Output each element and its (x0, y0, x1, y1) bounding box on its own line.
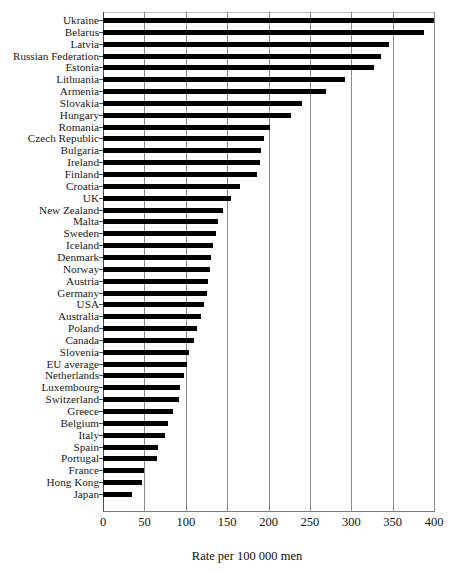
bar (103, 291, 207, 296)
x-tick-label: 350 (383, 515, 402, 529)
category-label: Finland (0, 169, 99, 180)
bar (103, 42, 389, 47)
category-label: Portugal (0, 453, 99, 464)
bar (103, 219, 218, 224)
category-label: USA (0, 299, 99, 310)
bar (103, 373, 184, 378)
category-label: Netherlands (0, 370, 99, 381)
bar (103, 433, 165, 438)
category-label: Iceland (0, 240, 99, 251)
category-label: Czech Republic (0, 133, 99, 144)
bar (103, 409, 173, 414)
category-label: Denmark (0, 252, 99, 263)
bar (103, 65, 374, 70)
category-label: Poland (0, 323, 99, 334)
bar (103, 279, 208, 284)
category-label: Latvia (0, 39, 99, 50)
bar (103, 445, 158, 450)
category-label: Slovenia (0, 347, 99, 358)
bar (103, 30, 424, 35)
bar (103, 421, 168, 426)
bar (103, 54, 381, 59)
bar (103, 18, 434, 23)
x-axis-tick-labels: 050100150200250300350400 (103, 515, 434, 533)
bar (103, 314, 201, 319)
bar (103, 255, 211, 260)
bar (103, 350, 189, 355)
bar (103, 184, 240, 189)
bar (103, 243, 213, 248)
category-label: Russian Federation (0, 51, 99, 62)
category-label: Canada (0, 335, 99, 346)
category-label: Norway (0, 264, 99, 275)
category-label: Romania (0, 122, 99, 133)
bar (103, 77, 345, 82)
category-label: Lithuania (0, 74, 99, 85)
bar (103, 338, 194, 343)
category-label: Armenia (0, 86, 99, 97)
bar (103, 136, 264, 141)
bar (103, 302, 204, 307)
plot-area (103, 12, 434, 512)
category-label: Japan (0, 489, 99, 500)
category-label: Bulgaria (0, 145, 99, 156)
category-label: Belarus (0, 27, 99, 38)
bar (103, 492, 132, 497)
category-label: UK (0, 193, 99, 204)
bar (103, 326, 197, 331)
category-label: EU average (0, 359, 99, 370)
bar (103, 456, 157, 461)
bar-chart: UkraineBelarusLatviaRussian FederationEs… (0, 0, 454, 573)
bar (103, 208, 223, 213)
x-tick-label: 400 (425, 515, 444, 529)
bar (103, 172, 257, 177)
category-label: Luxembourg (0, 382, 99, 393)
category-label: France (0, 465, 99, 476)
bar (103, 468, 144, 473)
bar (103, 89, 326, 94)
bar (103, 160, 260, 165)
x-tick-label: 0 (100, 515, 106, 529)
x-axis-title: Rate per 100 000 men (0, 549, 454, 564)
category-label: Malta (0, 216, 99, 227)
category-label: Hungary (0, 110, 99, 121)
bar-rows (103, 12, 434, 512)
bar (103, 125, 270, 130)
category-label: Estonia (0, 62, 99, 73)
category-label: Spain (0, 442, 99, 453)
category-label: Germany (0, 288, 99, 299)
category-label: Sweden (0, 228, 99, 239)
bar (103, 113, 291, 118)
bar (103, 148, 261, 153)
x-tick-label: 100 (176, 515, 195, 529)
x-tick-label: 200 (259, 515, 278, 529)
bar (103, 385, 180, 390)
x-tick-label: 250 (301, 515, 320, 529)
gridline (434, 12, 435, 512)
bar (103, 101, 302, 106)
category-label: Slovakia (0, 98, 99, 109)
bar (103, 480, 142, 485)
bar (103, 196, 231, 201)
category-label: Switzerland (0, 394, 99, 405)
x-tick-label: 300 (342, 515, 361, 529)
category-label: Ukraine (0, 15, 99, 26)
category-label: Ireland (0, 157, 99, 168)
x-tick-label: 50 (138, 515, 151, 529)
x-axis-title-text: Rate per 100 000 men (192, 549, 302, 564)
category-label: Italy (0, 430, 99, 441)
category-axis-labels: UkraineBelarusLatviaRussian FederationEs… (0, 12, 99, 512)
x-tick-label: 150 (218, 515, 237, 529)
bar (103, 362, 187, 367)
bar (103, 267, 210, 272)
category-label: Austria (0, 276, 99, 287)
category-label: New Zealand (0, 205, 99, 216)
category-label: Greece (0, 406, 99, 417)
category-label: Belgium (0, 418, 99, 429)
bar (103, 397, 179, 402)
category-label: Hong Kong (0, 477, 99, 488)
category-label: Australia (0, 311, 99, 322)
bar (103, 231, 216, 236)
category-label: Croatia (0, 181, 99, 192)
